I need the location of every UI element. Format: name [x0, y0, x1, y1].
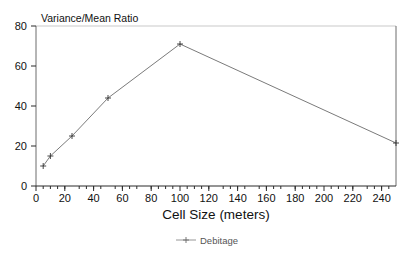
y-tick-label-40: 40 [15, 100, 27, 112]
legend-marker-cross-debitage [183, 237, 189, 243]
series-debitage [40, 41, 399, 169]
y-axis-ticks [31, 26, 36, 186]
y-tick-label-0: 0 [21, 180, 27, 192]
x-axis-title: Cell Size (meters) [162, 207, 269, 222]
plot-title: Variance/Mean Ratio [41, 12, 138, 24]
x-tick-label-240: 240 [372, 192, 390, 204]
x-axis-major-ticks [36, 186, 382, 191]
y-tick-label-60: 60 [15, 60, 27, 72]
x-tick-label-20: 20 [59, 192, 71, 204]
legend-label-debitage: Debitage [200, 235, 238, 246]
x-tick-label-220: 220 [344, 192, 362, 204]
x-tick-label-0: 0 [33, 192, 39, 204]
x-axis-tick-labels: 0 20 40 60 80 100 120 140 160 180 200 22… [33, 192, 391, 204]
x-tick-label-100: 100 [171, 192, 189, 204]
series-debitage-line [43, 44, 396, 166]
x-tick-label-40: 40 [87, 192, 99, 204]
plot-frame [36, 26, 396, 186]
x-tick-label-180: 180 [286, 192, 304, 204]
x-tick-label-120: 120 [200, 192, 218, 204]
x-tick-label-60: 60 [116, 192, 128, 204]
x-tick-label-80: 80 [145, 192, 157, 204]
chart-container: 80 60 40 20 0 [0, 0, 413, 258]
y-axis-tick-labels: 80 60 40 20 0 [15, 20, 27, 192]
legend: Debitage [176, 235, 238, 246]
x-tick-label-140: 140 [228, 192, 246, 204]
variance-mean-ratio-line-chart: 80 60 40 20 0 [0, 0, 413, 258]
series-debitage-markers [40, 41, 399, 169]
x-tick-label-200: 200 [315, 192, 333, 204]
y-tick-label-80: 80 [15, 20, 27, 32]
x-tick-label-160: 160 [257, 192, 275, 204]
y-tick-label-20: 20 [15, 140, 27, 152]
